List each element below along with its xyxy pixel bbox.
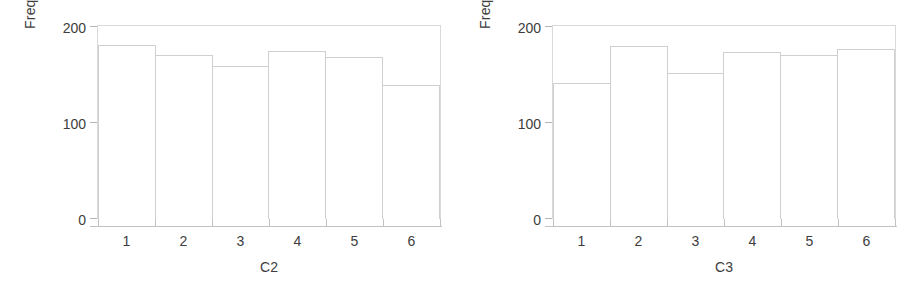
x-axis-line bbox=[90, 226, 442, 227]
x-axis-line bbox=[545, 226, 897, 227]
x-tick-mark bbox=[212, 219, 213, 226]
y-tick-mark-100 bbox=[90, 122, 97, 123]
x-tick-label: 6 bbox=[400, 233, 424, 249]
x-tick-label: 5 bbox=[343, 233, 367, 249]
x-tick-mark bbox=[724, 219, 725, 226]
x-tick-label: 1 bbox=[570, 233, 594, 249]
y-tick-label-200: 200 bbox=[495, 21, 541, 35]
x-tick-label: 6 bbox=[855, 233, 879, 249]
bar bbox=[268, 51, 326, 219]
bars-container bbox=[98, 26, 440, 219]
bar bbox=[837, 49, 895, 219]
x-tick-label: 1 bbox=[115, 233, 139, 249]
bar bbox=[325, 57, 383, 219]
x-tick-mark bbox=[895, 219, 896, 226]
x-tick-mark bbox=[781, 219, 782, 226]
bar bbox=[98, 45, 156, 219]
bar bbox=[553, 83, 611, 219]
y-axis-title: Frequency bbox=[477, 0, 497, 70]
y-tick-mark-100 bbox=[545, 122, 552, 123]
x-tick-mark bbox=[269, 219, 270, 226]
bars-container bbox=[553, 26, 895, 219]
x-tick-label: 4 bbox=[741, 233, 765, 249]
bar bbox=[667, 73, 725, 219]
x-tick-label: 4 bbox=[286, 233, 310, 249]
y-tick-mark-0 bbox=[90, 218, 97, 219]
x-tick-mark bbox=[155, 219, 156, 226]
y-tick-label-0: 0 bbox=[495, 213, 541, 227]
x-tick-mark bbox=[98, 219, 99, 226]
y-tick-mark-200 bbox=[545, 26, 552, 27]
y-tick-label-200: 200 bbox=[40, 21, 86, 35]
x-tick-mark bbox=[440, 219, 441, 226]
y-tick-label-0: 0 bbox=[40, 213, 86, 227]
x-tick-mark bbox=[838, 219, 839, 226]
y-tick-mark-200 bbox=[90, 26, 97, 27]
bar bbox=[723, 52, 781, 219]
x-tick-mark bbox=[667, 219, 668, 226]
x-tick-label: 5 bbox=[798, 233, 822, 249]
y-tick-label-100: 100 bbox=[40, 117, 86, 131]
x-axis-title: C3 bbox=[552, 259, 896, 275]
bar bbox=[610, 46, 668, 219]
x-tick-mark bbox=[326, 219, 327, 226]
bar bbox=[155, 55, 213, 219]
bar bbox=[212, 66, 270, 219]
y-tick-mark-0 bbox=[545, 218, 552, 219]
x-tick-label: 3 bbox=[229, 233, 253, 249]
x-tick-mark bbox=[383, 219, 384, 226]
x-tick-label: 2 bbox=[627, 233, 651, 249]
histogram-figure: Frequency 200 100 0 123456 C2 Frequency … bbox=[0, 0, 910, 291]
x-axis-title: C2 bbox=[97, 259, 441, 275]
x-tick-label: 3 bbox=[684, 233, 708, 249]
x-tick-label: 2 bbox=[172, 233, 196, 249]
x-tick-mark bbox=[610, 219, 611, 226]
bar bbox=[780, 55, 838, 219]
histogram-panel-c3: Frequency 200 100 0 123456 C3 bbox=[455, 0, 910, 291]
bar bbox=[382, 85, 440, 219]
y-tick-label-100: 100 bbox=[495, 117, 541, 131]
y-axis-title: Frequency bbox=[22, 0, 42, 70]
histogram-panel-c2: Frequency 200 100 0 123456 C2 bbox=[0, 0, 455, 291]
x-tick-mark bbox=[553, 219, 554, 226]
